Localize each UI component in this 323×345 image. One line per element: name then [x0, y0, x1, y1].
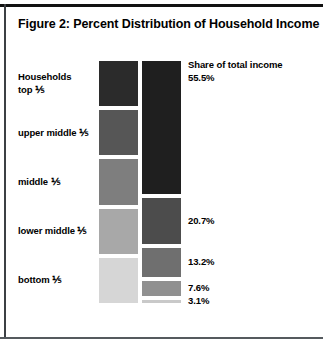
households-segment-2 [99, 108, 138, 157]
income-segment-4 [142, 279, 181, 298]
households-segment-4 [99, 207, 138, 256]
income-share-bar [142, 59, 181, 305]
income-segment-2 [142, 196, 181, 247]
households-bar [99, 59, 138, 305]
households-segment-5 [99, 256, 138, 305]
share-value-middle-fifth: 13.2% [188, 256, 214, 269]
share-value-top-fifth: 55.5% [188, 72, 214, 85]
share-value-upper-middle-fifth: 20.7% [188, 215, 214, 228]
income-label-column: Share of total income 55.5% 20.7% 13.2% … [188, 59, 313, 309]
income-segment-5 [142, 298, 181, 306]
share-header: Share of total income [188, 59, 283, 72]
income-segment-1 [142, 59, 181, 196]
income-segment-3 [142, 246, 181, 278]
households-segment-1 [99, 59, 138, 108]
share-value-lower-middle-fifth: 7.6% [188, 282, 209, 295]
figure-frame: Figure 2: Percent Distribution of Househ… [0, 0, 323, 345]
share-value-bottom-fifth: 3.1% [188, 295, 209, 308]
households-segment-3 [99, 157, 138, 206]
